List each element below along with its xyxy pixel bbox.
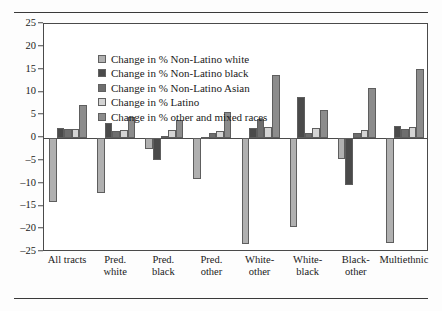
bar[interactable]	[64, 129, 72, 138]
x-axis: All tractsPred. whitePred. blackPred. ot…	[43, 254, 428, 294]
bar-slot	[320, 24, 328, 250]
bar[interactable]	[401, 129, 409, 138]
bar-slot	[409, 24, 417, 250]
figure-container: 2520151050–5–10–15–20–25 Change in % Non…	[0, 0, 442, 311]
bar-slot	[290, 24, 298, 250]
plot-frame: Change in % Non-Latino whiteChange in % …	[43, 23, 428, 251]
legend-item-label: Change in % Non-Latino white	[111, 53, 249, 65]
legend-swatch-icon	[98, 69, 106, 77]
bar[interactable]	[312, 128, 320, 138]
bar[interactable]	[120, 130, 128, 138]
bar[interactable]	[394, 126, 402, 138]
bar-slot	[305, 24, 313, 250]
bar[interactable]	[105, 123, 113, 138]
bar-slot	[353, 24, 361, 250]
bar-slot	[394, 24, 402, 250]
bar-slot	[368, 24, 376, 250]
legend-swatch-icon	[98, 113, 106, 121]
bar-slot	[361, 24, 369, 250]
bar[interactable]	[153, 138, 161, 160]
y-axis-tick: –10	[0, 177, 43, 188]
legend-item[interactable]: Change in % Non-Latino black	[98, 67, 267, 81]
bar[interactable]	[72, 129, 80, 138]
bar-group	[381, 24, 429, 250]
legend-item[interactable]: Change in % Latino	[98, 96, 267, 110]
chart-legend: Change in % Non-Latino whiteChange in % …	[98, 52, 267, 124]
bar-slot	[79, 24, 87, 250]
bar-slot	[49, 24, 57, 250]
bar[interactable]	[386, 138, 394, 243]
bar[interactable]	[290, 138, 298, 227]
bar-slot	[272, 24, 280, 250]
page-rule-top	[14, 12, 428, 13]
y-axis: 2520151050–5–10–15–20–25	[0, 23, 43, 251]
bar[interactable]	[193, 138, 201, 179]
legend-swatch-icon	[98, 84, 106, 92]
bar-group	[285, 24, 333, 250]
bar-slot	[57, 24, 65, 250]
legend-swatch-icon	[98, 55, 106, 63]
y-axis-tick: 5	[0, 109, 43, 120]
y-axis-tick: 20	[0, 41, 43, 52]
y-axis-tick: –15	[0, 200, 43, 211]
legend-swatch-icon	[98, 98, 106, 106]
bar[interactable]	[112, 131, 120, 138]
bar-slot	[401, 24, 409, 250]
bar[interactable]	[161, 136, 169, 138]
y-axis-tick: –20	[0, 223, 43, 234]
legend-item[interactable]: Change in % Non-Latino white	[98, 52, 267, 66]
bar[interactable]	[416, 69, 424, 138]
legend-item-label: Change in % Non-Latino Asian	[111, 82, 250, 94]
bar[interactable]	[320, 110, 328, 138]
bar[interactable]	[216, 131, 224, 138]
bar-slot	[64, 24, 72, 250]
bar[interactable]	[79, 105, 87, 138]
bar[interactable]	[168, 130, 176, 138]
legend-item[interactable]: Change in % Non-Latino Asian	[98, 81, 267, 95]
bar[interactable]	[361, 130, 369, 138]
bar-group	[44, 24, 92, 250]
bar[interactable]	[209, 133, 217, 138]
bar[interactable]	[409, 127, 417, 138]
y-axis-tick: 10	[0, 86, 43, 97]
legend-item-label: Change in % Latino	[111, 96, 199, 108]
bar-slot	[297, 24, 305, 250]
legend-item-label: Change in % other and mixed races	[111, 111, 267, 123]
bar[interactable]	[368, 88, 376, 138]
bar-slot	[416, 24, 424, 250]
bar[interactable]	[305, 133, 313, 138]
legend-item[interactable]: Change in % other and mixed races	[98, 110, 267, 124]
bar[interactable]	[145, 138, 153, 149]
bar[interactable]	[353, 133, 361, 138]
page-rule-bottom	[14, 298, 428, 299]
y-axis-tick: 0	[0, 132, 43, 143]
legend-item-label: Change in % Non-Latino black	[111, 67, 248, 79]
bar-slot	[345, 24, 353, 250]
bar-group	[333, 24, 381, 250]
bar[interactable]	[272, 75, 280, 138]
bar-slot	[386, 24, 394, 250]
bar-slot	[72, 24, 80, 250]
bar[interactable]	[338, 138, 346, 159]
bar[interactable]	[97, 138, 105, 193]
x-axis-tick-label: Multiethnic	[374, 254, 434, 266]
y-axis-tick: 25	[0, 18, 43, 29]
bar[interactable]	[57, 128, 65, 138]
bar[interactable]	[264, 127, 272, 138]
bar[interactable]	[297, 97, 305, 138]
bar[interactable]	[201, 137, 209, 139]
bar[interactable]	[249, 128, 257, 138]
bar[interactable]	[49, 138, 57, 202]
y-axis-tick: 15	[0, 63, 43, 74]
y-axis-tick: –5	[0, 155, 43, 166]
bar-slot	[338, 24, 346, 250]
bar-slot	[312, 24, 320, 250]
bar[interactable]	[345, 138, 353, 185]
bar[interactable]	[242, 138, 250, 244]
